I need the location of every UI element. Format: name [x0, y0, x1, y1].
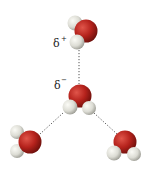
- hydrogen-atom: [63, 100, 78, 115]
- hydrogen-atom: [107, 146, 122, 161]
- water-molecule-left: [10, 125, 42, 158]
- hydrogen-bond-left: [40, 113, 63, 134]
- water-molecule-center: [63, 85, 97, 116]
- hydrogen-atom: [70, 35, 85, 50]
- water-molecule-right: [107, 131, 142, 162]
- water-hydrogen-bond-diagram: δ + δ −: [0, 0, 156, 173]
- hydrogen-atom: [82, 101, 96, 115]
- delta-minus-sign: −: [61, 76, 67, 84]
- delta-plus-label: δ: [53, 37, 60, 50]
- hydrogen-bond-right: [94, 113, 117, 134]
- hydrogen-atom: [127, 147, 141, 161]
- delta-minus-label: δ: [54, 79, 61, 92]
- oxygen-atom: [19, 131, 42, 154]
- delta-plus-sign: +: [61, 35, 67, 43]
- water-molecule-top: [68, 16, 98, 50]
